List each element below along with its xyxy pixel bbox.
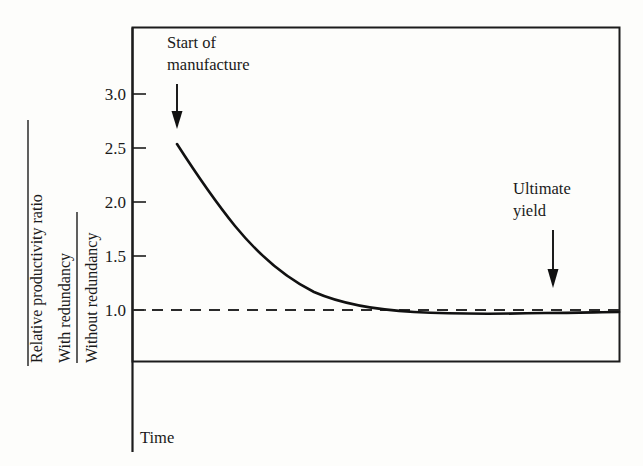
x-axis-caption: Time <box>140 428 174 447</box>
annotation-start-of-manufacture: Start of manufacture <box>167 33 249 129</box>
start-of-manufacture-arrow-head-icon <box>172 111 183 129</box>
ultimate-yield-label-line2: yield <box>513 201 547 220</box>
y-tick-labels: 3.0 2.5 2.0 1.5 1.0 <box>105 85 126 320</box>
figure-container: 3.0 2.5 2.0 1.5 1.0 Start of manufacture… <box>0 0 643 466</box>
start-of-manufacture-label-line1: Start of <box>167 33 217 52</box>
y-tick-label-2-0: 2.0 <box>105 193 126 212</box>
y-tick-label-3-0: 3.0 <box>105 85 126 104</box>
y-tick-marks <box>133 94 146 310</box>
chart-svg: 3.0 2.5 2.0 1.5 1.0 Start of manufacture… <box>0 0 643 466</box>
start-of-manufacture-label-line2: manufacture <box>167 55 249 74</box>
y-axis-title-denominator: Without redundancy <box>83 233 101 363</box>
y-axis-title-primary: Relative productivity ratio <box>28 194 46 363</box>
annotation-ultimate-yield: Ultimate yield <box>513 179 571 288</box>
y-axis-title-numerator: With redundancy <box>56 253 74 363</box>
ultimate-yield-label-line1: Ultimate <box>513 179 571 198</box>
y-tick-label-1-0: 1.0 <box>105 301 126 320</box>
y-tick-label-2-5: 2.5 <box>105 139 126 158</box>
y-tick-label-1-5: 1.5 <box>105 247 126 266</box>
ultimate-yield-arrow-head-icon <box>548 269 559 288</box>
productivity-ratio-curve <box>177 144 619 314</box>
